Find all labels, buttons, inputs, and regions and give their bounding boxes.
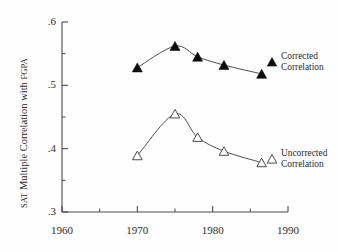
y-axis-tick-label: .4 — [40, 142, 56, 154]
data-point-filled-triangle — [219, 60, 229, 69]
data-point-open-triangle — [133, 151, 143, 160]
data-point-filled-triangle — [132, 63, 142, 72]
y-axis-label-sat: SAT — [19, 193, 29, 208]
y-axis-label-middle: Multiple Correlation with — [18, 80, 29, 193]
series-corrected — [132, 41, 266, 78]
series-annotation-corrected-line1: Corrected — [281, 51, 324, 62]
y-axis-label: SAT Multiple Correlation with FGPA — [18, 58, 29, 208]
series-annotation-corrected-line2: Correlation — [281, 62, 324, 73]
x-axis-tick-label: 1980 — [198, 224, 228, 236]
x-axis-tick-label: 1970 — [122, 224, 152, 236]
y-axis-label-fgpa: FGPA — [19, 58, 29, 79]
chart-series — [132, 41, 276, 166]
chart-container: SAT Multiple Correlation with FGPA 19601… — [0, 0, 338, 252]
legend-marker-filled-triangle — [267, 58, 277, 67]
y-axis-tick-label: .5 — [40, 78, 56, 90]
data-point-filled-triangle — [193, 52, 203, 61]
data-point-filled-triangle — [257, 69, 267, 78]
data-point-open-triangle — [219, 147, 229, 156]
series-annotation-uncorrected-line1: Uncorrected — [281, 148, 327, 159]
series-annotation-uncorrected-line2: Correlation — [281, 159, 327, 170]
x-axis-tick-label: 1960 — [47, 224, 77, 236]
series-uncorrected — [133, 109, 267, 166]
y-axis-tick-label: .3 — [40, 205, 56, 217]
data-point-open-triangle — [257, 158, 267, 167]
legend-marker-open-triangle — [267, 155, 277, 164]
series-annotation-uncorrected: Uncorrected Correlation — [281, 148, 327, 170]
x-axis-tick-label: 1990 — [273, 224, 303, 236]
series-annotation-corrected: Corrected Correlation — [281, 51, 324, 73]
y-axis-tick-label: .6 — [40, 15, 56, 27]
